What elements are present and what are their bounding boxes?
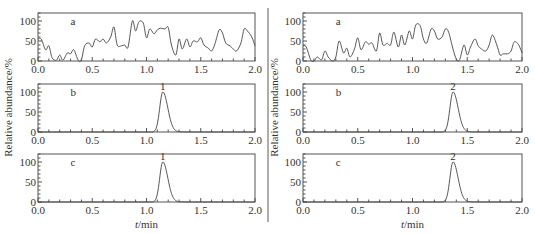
y-tick-label: 50 [290,35,302,47]
x-tick-label: 1.5 [460,204,474,216]
x-axis-title: t/min [135,218,159,230]
x-tick-label: 0.5 [85,134,99,146]
x-tick-label: 1.5 [194,63,208,75]
x-tick-label: 2.0 [248,134,262,146]
y-tick-label: 0 [296,126,302,138]
x-tick-label: 1.5 [194,204,208,216]
y-tick-label: 50 [290,106,302,118]
panel-letter: c [71,156,76,168]
chromatogram-figure: Relative abundance/%t/min0.00.51.01.52.0… [0,0,535,233]
y-tick-label: 50 [25,35,37,47]
y-tick-label: 100 [285,15,302,27]
y-tick-label: 100 [20,86,37,98]
peak-label: 2 [450,80,456,92]
subplot-b: 0.00.51.01.52.0050100b1 [20,80,263,146]
signal-trace [38,92,255,132]
y-tick-label: 50 [25,106,37,118]
x-tick-label: 1.5 [460,63,474,75]
y-tick-label: 100 [20,156,37,168]
panel-right: Relative abundance/%t/min0.00.51.01.52.0… [268,13,529,230]
y-tick-label: 0 [31,55,37,67]
x-tick-label: 0.5 [351,204,365,216]
panel-letter: a [71,15,76,27]
x-tick-label: 2.0 [248,204,262,216]
subplot-c: 0.00.51.01.52.0050100c1 [20,150,263,216]
x-tick-label: 0.5 [85,204,99,216]
panel-letter: c [336,156,341,168]
panel-letter: b [71,86,77,98]
y-tick-label: 100 [20,15,37,27]
x-tick-label: 1.0 [406,204,420,216]
y-axis-title: Relative abundance/% [2,58,14,157]
x-tick-label: 1.0 [140,204,154,216]
y-tick-label: 0 [296,55,302,67]
x-tick-label: 0.5 [351,134,365,146]
x-tick-label: 2.0 [515,204,529,216]
x-tick-label: 0.5 [85,63,99,75]
subplot-a: 0.00.51.01.52.0050100a [285,13,530,75]
y-tick-label: 0 [31,196,37,208]
y-tick-label: 50 [25,176,37,188]
y-axis-title: Relative abundance/% [268,58,280,157]
peak-label: 1 [160,80,166,92]
x-tick-label: 1.0 [406,63,420,75]
panel-letter: a [336,15,341,27]
subplot-c: 0.00.51.01.52.0050100c2 [285,150,530,216]
y-tick-label: 50 [290,176,302,188]
panel-letter: b [336,86,342,98]
y-tick-label: 0 [296,196,302,208]
subplot-b: 0.00.51.01.52.0050100b2 [285,80,530,146]
peak-label: 1 [160,150,166,162]
signal-trace [303,24,522,62]
x-tick-label: 1.5 [194,134,208,146]
x-tick-label: 0.5 [351,63,365,75]
y-tick-label: 100 [285,156,302,168]
peak-label: 2 [450,150,456,162]
signal-trace [38,162,255,202]
x-tick-label: 1.0 [140,63,154,75]
signal-trace [303,162,522,202]
x-tick-label: 2.0 [515,134,529,146]
x-tick-label: 1.0 [406,134,420,146]
y-tick-label: 100 [285,86,302,98]
panel-left: Relative abundance/%t/min0.00.51.01.52.0… [2,13,262,230]
x-tick-label: 2.0 [515,63,529,75]
y-tick-label: 0 [31,126,37,138]
signal-trace [303,92,522,132]
x-axis-title: t/min [401,218,425,230]
x-tick-label: 1.5 [460,134,474,146]
x-tick-label: 1.0 [140,134,154,146]
x-tick-label: 2.0 [248,63,262,75]
subplot-a: 0.00.51.01.52.0050100a [20,13,263,75]
